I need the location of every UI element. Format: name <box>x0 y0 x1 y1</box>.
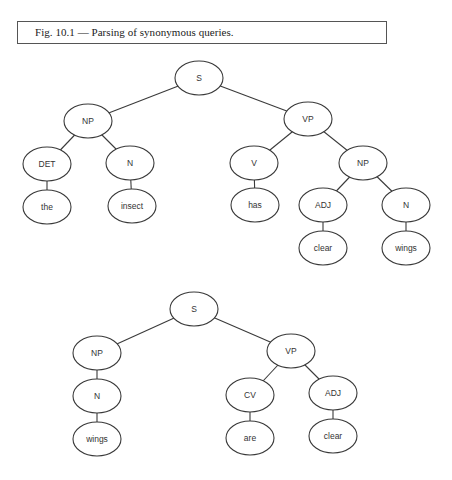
node-label: N <box>127 158 133 168</box>
node-label: S <box>191 304 197 314</box>
tree-node-vp: VP <box>284 102 332 136</box>
node-label: insect <box>121 201 144 211</box>
tree-node-clear: clear <box>309 419 357 453</box>
node-label: NP <box>91 348 103 358</box>
node-label: ADJ <box>315 200 331 210</box>
tree-node-wings: wings <box>73 422 121 456</box>
node-label: S <box>196 73 202 83</box>
tree-node-v: V <box>230 146 278 180</box>
tree-node-has: has <box>231 188 279 222</box>
node-label: ADJ <box>325 388 341 398</box>
node-label: wings <box>394 243 417 253</box>
tree-node-the: the <box>23 190 71 224</box>
node-label: clear <box>324 431 343 441</box>
node-label: VP <box>302 114 314 124</box>
tree-node-vp: VP <box>267 334 315 368</box>
tree-node-cv: CV <box>226 378 274 412</box>
tree-node-clear: clear <box>299 231 347 265</box>
node-label: are <box>244 433 257 443</box>
node-label: CV <box>244 390 256 400</box>
tree-node-adj: ADJ <box>299 188 347 222</box>
tree-node-s: S <box>175 61 223 95</box>
node-label: DET <box>39 159 56 169</box>
node-label: VP <box>285 346 297 356</box>
tree-node-wings: wings <box>382 231 430 265</box>
node-label: NP <box>82 116 94 126</box>
tree-node-are: are <box>226 421 274 455</box>
tree-node-np: NP <box>64 104 112 138</box>
tree-node-np: NP <box>73 336 121 370</box>
node-label: the <box>41 202 53 212</box>
node-label: clear <box>314 243 333 253</box>
parse-tree-1: SNPVPDETNVNPtheinsecthasADJNclearwings <box>23 61 430 265</box>
node-label: V <box>251 158 257 168</box>
tree-node-det: DET <box>23 147 71 181</box>
edges <box>97 309 333 439</box>
tree-node-adj: ADJ <box>309 376 357 410</box>
tree-node-np2: NP <box>339 146 387 180</box>
parse-tree-2: SNPVPNwingsCVADJareclear <box>73 292 357 456</box>
node-label: has <box>248 200 262 210</box>
tree-node-n2: N <box>382 188 430 222</box>
tree-node-n: N <box>106 146 154 180</box>
node-label: N <box>94 391 100 401</box>
tree-node-n: N <box>73 379 121 413</box>
parse-trees-diagram: SNPVPDETNVNPtheinsecthasADJNclearwingsSN… <box>0 0 452 480</box>
node-label: N <box>403 200 409 210</box>
tree-node-insect: insect <box>108 189 156 223</box>
tree-node-s: S <box>170 292 218 326</box>
node-label: NP <box>357 158 369 168</box>
node-label: wings <box>85 434 108 444</box>
